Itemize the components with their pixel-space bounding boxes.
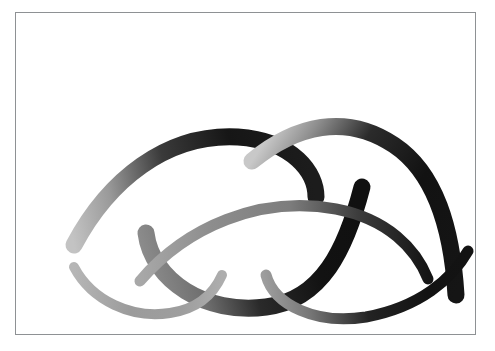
lower-right-valley-stroke xyxy=(266,251,468,319)
figure-root xyxy=(0,0,495,351)
lower-middle-arch-stroke xyxy=(140,206,428,281)
stroke-canvas xyxy=(16,13,477,336)
figure-frame-border xyxy=(15,12,476,335)
